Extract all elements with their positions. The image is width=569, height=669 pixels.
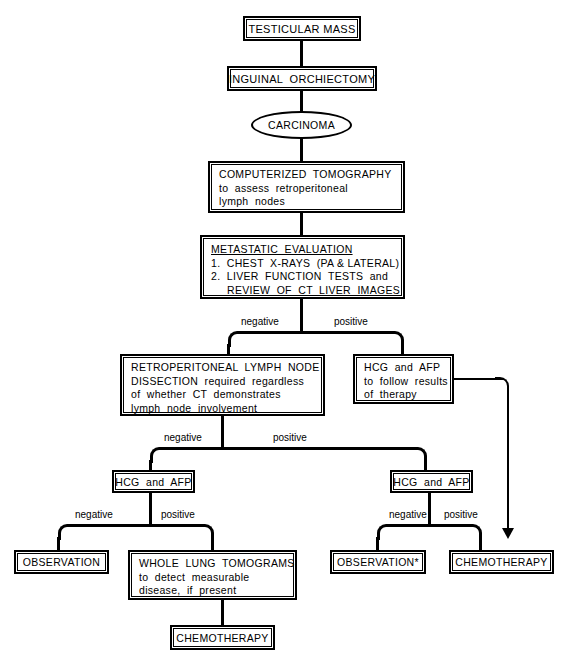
label-rplnd-positive: positive — [272, 432, 308, 443]
node-metastatic-eval-item1: 1. CHEST X-RAYS (PA & LATERAL) — [211, 257, 395, 271]
node-hcg-afp-left: HCG and AFP — [112, 470, 195, 493]
node-whole-lung-line1: WHOLE LUNG TOMOGRAMS — [139, 557, 287, 571]
node-whole-lung-line3: disease, if present — [139, 584, 287, 598]
label-left-hcg-negative: negative — [74, 509, 114, 520]
connector-rplnd-stem — [221, 416, 224, 448]
node-testicular-mass-label: TESTICULAR MASS — [248, 23, 355, 35]
node-metastatic-eval-item2b: REVIEW OF CT LIVER IMAGES — [211, 284, 395, 298]
node-rplnd-line1: RETROPERITONEAL LYMPH NODE — [131, 361, 315, 375]
elbow-right-hcg-positive — [427, 524, 482, 540]
node-computerized-tomography: COMPUTERIZED TOMOGRAPHY to assess retrop… — [208, 161, 405, 213]
node-testicular-mass: TESTICULAR MASS — [243, 16, 361, 41]
node-chemotherapy-right-label: CHEMOTHERAPY — [455, 556, 547, 568]
node-hcg-afp-follow-line3: of therapy — [364, 388, 444, 402]
connector-right-hcg-positive-drop — [479, 537, 482, 551]
connector-left-hcg-positive-drop — [211, 537, 214, 551]
node-ct-line2: to assess retroperitoneal — [219, 182, 395, 196]
node-ct-line3: lymph nodes — [219, 195, 395, 209]
label-right-hcg-positive: positive — [443, 509, 479, 520]
node-hcg-afp-right-label: HCG and AFP — [393, 476, 469, 488]
label-right-hcg-negative: negative — [388, 509, 428, 520]
node-metastatic-evaluation: METASTATIC EVALUATION 1. CHEST X-RAYS (P… — [200, 235, 405, 299]
connector-right-hcg-stem — [428, 493, 431, 525]
elbow-rplnd-positive — [220, 447, 427, 463]
connector-metastatic-eval-stem — [300, 299, 303, 332]
node-observation-right: OBSERVATION* — [330, 550, 426, 574]
node-whole-lung-line2: to detect measurable — [139, 571, 287, 585]
node-metastatic-eval-heading: METASTATIC EVALUATION — [211, 243, 395, 257]
node-hcg-afp-follow-line2: to follow results — [364, 375, 444, 389]
node-chemotherapy-bottom-label: CHEMOTHERAPY — [176, 632, 268, 644]
connector-left-hcg-negative-drop — [57, 537, 60, 551]
connector-ct-to-metastatic-eval — [300, 213, 303, 235]
node-rplnd-line4: lymph node involvement — [131, 402, 315, 416]
node-rplnd: RETROPERITONEAL LYMPH NODE DISSECTION re… — [120, 354, 325, 416]
connector-right-hcg-negative-drop — [376, 537, 379, 551]
node-hcg-afp-follow: HCG and AFP to follow results of therapy — [353, 354, 454, 404]
node-hcg-afp-follow-line1: HCG and AFP — [364, 361, 444, 375]
label-left-hcg-positive: positive — [160, 509, 196, 520]
connector-orchiectomy-to-carcinoma — [300, 91, 303, 113]
node-carcinoma-label: CARCINOMA — [268, 119, 335, 131]
label-met-positive: positive — [333, 316, 369, 327]
label-rplnd-negative: negative — [163, 432, 203, 443]
connector-left-hcg-stem — [149, 493, 152, 525]
node-rplnd-line2: DISSECTION required regardless — [131, 375, 315, 389]
elbow-left-hcg-negative — [58, 524, 151, 540]
elbow-met-positive — [299, 331, 404, 347]
elbow-rplnd-negative — [150, 447, 223, 463]
node-chemotherapy-bottom: CHEMOTHERAPY — [170, 625, 275, 650]
elbow-met-negative — [228, 331, 302, 347]
node-ct-line1: COMPUTERIZED TOMOGRAPHY — [219, 168, 395, 182]
connector-mass-to-orchiectomy — [300, 41, 303, 66]
flowchart-canvas: TESTICULAR MASS INGUINAL ORCHIECTOMY CAR… — [0, 0, 569, 669]
node-whole-lung-tomograms: WHOLE LUNG TOMOGRAMS to detect measurabl… — [128, 550, 297, 600]
node-observation-left: OBSERVATION — [14, 550, 109, 574]
arrowhead-to-chemotherapy-right — [502, 528, 514, 539]
node-chemotherapy-right: CHEMOTHERAPY — [449, 550, 554, 574]
elbow-left-hcg-positive — [148, 524, 214, 540]
node-inguinal-orchiectomy-label: INGUINAL ORCHIECTOMY — [229, 73, 375, 85]
connector-carcinoma-to-ct — [300, 139, 303, 161]
connector-follow-down-long — [507, 388, 509, 530]
node-inguinal-orchiectomy: INGUINAL ORCHIECTOMY — [227, 66, 377, 91]
label-met-negative: negative — [240, 316, 280, 327]
node-hcg-afp-left-label: HCG and AFP — [115, 476, 191, 488]
node-observation-left-label: OBSERVATION — [23, 556, 100, 568]
elbow-right-hcg-negative — [377, 524, 430, 540]
node-carcinoma: CARCINOMA — [251, 111, 352, 139]
node-metastatic-eval-item2: 2. LIVER FUNCTION TESTS and — [211, 270, 395, 284]
node-rplnd-line3: of whether CT demonstrates — [131, 388, 315, 402]
node-hcg-afp-right: HCG and AFP — [390, 470, 473, 493]
connector-whole-lung-to-chemotherapy — [221, 600, 224, 625]
node-observation-right-label: OBSERVATION* — [337, 556, 419, 568]
